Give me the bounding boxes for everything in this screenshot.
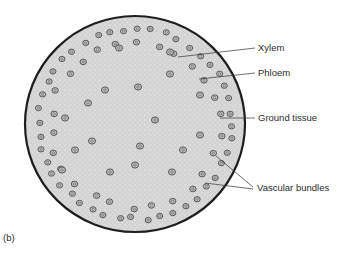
vascular-bundle xyxy=(80,59,86,65)
label-xylem: Xylem xyxy=(258,42,284,53)
vascular-bundle xyxy=(88,138,95,144)
vascular-bundle xyxy=(101,87,108,93)
vascular-bundle xyxy=(71,147,78,153)
vascular-bundle xyxy=(221,83,227,88)
vascular-bundle xyxy=(38,134,44,139)
vascular-bundle xyxy=(67,71,73,77)
vascular-bundle xyxy=(212,175,218,180)
vascular-bundle xyxy=(194,197,200,202)
vascular-bundle xyxy=(59,56,65,61)
stem-cross-section-diagram xyxy=(0,0,353,257)
vascular-bundle xyxy=(52,88,58,94)
vascular-bundle xyxy=(228,124,234,129)
vascular-bundle xyxy=(57,183,63,188)
vascular-bundle xyxy=(76,200,82,205)
vascular-bundle xyxy=(148,203,154,209)
vascular-bundle xyxy=(168,169,175,175)
vascular-bundle xyxy=(106,169,113,175)
vascular-bundle xyxy=(199,171,205,177)
vascular-bundle xyxy=(131,162,138,168)
vascular-bundle xyxy=(40,92,46,97)
vascular-bundle xyxy=(218,111,224,117)
vascular-bundle xyxy=(84,100,91,106)
vascular-bundle xyxy=(218,160,224,165)
vascular-bundle xyxy=(61,115,68,121)
vascular-bundle xyxy=(83,40,89,45)
label-vascular-bundles: Vascular bundles xyxy=(257,182,329,193)
vascular-bundle xyxy=(68,49,74,54)
vascular-bundle xyxy=(51,130,57,136)
vascular-bundle xyxy=(166,49,173,55)
vascular-bundle xyxy=(134,84,141,90)
vascular-bundle xyxy=(58,167,65,173)
vascular-bundle xyxy=(210,150,216,156)
vascular-bundle xyxy=(157,213,163,218)
vascular-bundle xyxy=(179,147,186,153)
vascular-bundle xyxy=(107,30,113,35)
vascular-bundle xyxy=(212,95,218,101)
vascular-bundle xyxy=(226,95,232,100)
vascular-bundle xyxy=(147,26,153,31)
vascular-bundle xyxy=(224,150,230,155)
vascular-bundle xyxy=(50,150,56,156)
label-ground-tissue: Ground tissue xyxy=(258,112,317,123)
vascular-bundle xyxy=(115,45,122,51)
vascular-bundle xyxy=(133,39,139,45)
vascular-bundle xyxy=(38,147,44,152)
vascular-bundle xyxy=(170,210,176,215)
vascular-bundle xyxy=(219,133,225,139)
vascular-bundle xyxy=(118,216,124,221)
vascular-bundle xyxy=(134,26,140,31)
vascular-bundle xyxy=(190,186,196,192)
vascular-bundle xyxy=(196,92,203,98)
vascular-bundle xyxy=(229,136,235,141)
vascular-bundle xyxy=(151,117,158,123)
vascular-bundle xyxy=(156,44,162,50)
vascular-bundle xyxy=(94,47,100,53)
vascular-bundle xyxy=(207,62,213,67)
vascular-bundle xyxy=(131,206,137,212)
vascular-bundle xyxy=(45,160,51,165)
vascular-bundle xyxy=(51,111,57,117)
vascular-bundle xyxy=(71,181,77,187)
vascular-bundle xyxy=(173,36,179,41)
vascular-bundle xyxy=(35,105,41,110)
vascular-bundle xyxy=(217,71,223,76)
vascular-bundle xyxy=(96,32,102,37)
vascular-bundle xyxy=(136,143,143,149)
vascular-bundle xyxy=(170,198,176,204)
vascular-bundle xyxy=(128,214,134,219)
vascular-bundle xyxy=(203,184,209,189)
vascular-bundle xyxy=(106,199,112,205)
vascular-bundle xyxy=(166,71,173,77)
vascular-bundle xyxy=(227,111,233,116)
vascular-bundle xyxy=(100,212,106,217)
vascular-bundle xyxy=(69,191,75,196)
vascular-bundle xyxy=(120,28,126,33)
vascular-bundle xyxy=(187,45,193,50)
vascular-bundle xyxy=(37,120,43,125)
vascular-bundle xyxy=(46,79,52,84)
vascular-bundle xyxy=(90,207,96,212)
vascular-bundle xyxy=(145,217,151,222)
panel-label: (b) xyxy=(3,232,15,243)
vascular-bundle xyxy=(93,193,99,199)
vascular-bundle xyxy=(48,171,54,176)
vascular-bundle xyxy=(189,64,195,70)
vascular-bundle xyxy=(50,69,56,74)
vascular-bundle xyxy=(163,30,169,35)
vascular-bundle xyxy=(196,132,203,138)
vascular-bundle xyxy=(183,204,189,209)
label-phloem: Phloem xyxy=(258,67,290,78)
